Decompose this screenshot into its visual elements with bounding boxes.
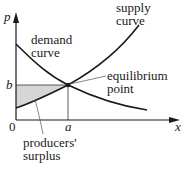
y-axis-label: p [3, 9, 11, 24]
surplus-label-line2: surplus [23, 148, 61, 163]
origin-label: 0 [9, 119, 16, 134]
supply-demand-diagram: p x 0 a b demand curve supply curve equi… [0, 0, 185, 169]
demand-curve-label-line2: curve [31, 45, 60, 60]
y-tick-label-b: b [6, 77, 13, 92]
equilibrium-label-line2: point [107, 81, 134, 96]
supply-curve-label-line2: curve [116, 13, 145, 28]
x-axis-label: x [174, 119, 181, 134]
x-tick-label-a: a [65, 119, 72, 134]
surplus-leader-line [35, 100, 43, 134]
y-axis-arrow-icon [13, 12, 19, 23]
equilibrium-point-marker [66, 83, 70, 87]
